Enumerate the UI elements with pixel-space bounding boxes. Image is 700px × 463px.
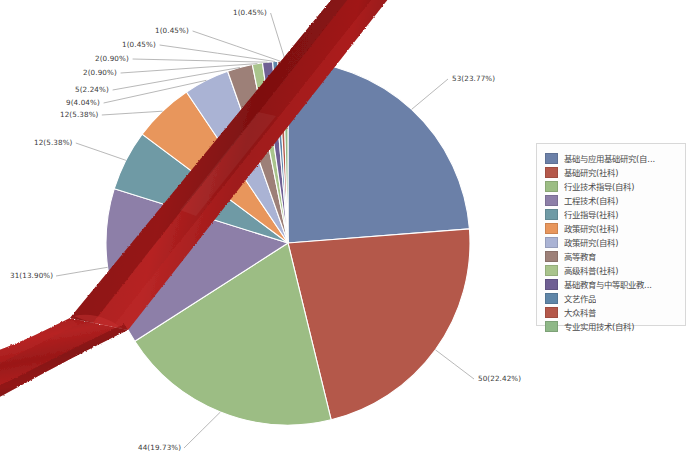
pie-data-label: 44(19.73%) (138, 443, 181, 452)
legend-item-label: 文艺作品 (564, 294, 596, 304)
pie-data-label: 50(22.42%) (478, 374, 521, 383)
chart-legend: 基础与应用基础研究(自...基础研究(社科)行业技术指导(自科)工程技术(自科)… (536, 143, 686, 326)
legend-item-label: 基础教育与中等职业教... (564, 280, 652, 290)
legend-color-swatch (545, 265, 558, 276)
pie-data-label: 31(13.90%) (10, 271, 53, 280)
pie-slices-group (106, 61, 470, 425)
label-leader-line (76, 143, 126, 160)
legend-color-swatch (545, 209, 558, 220)
label-leader-line (56, 267, 108, 276)
legend-item[interactable]: 行业指导(社科) (545, 208, 679, 221)
pie-data-label: 9(4.04%) (66, 98, 100, 107)
pie-data-label: 12(5.38%) (34, 138, 73, 147)
legend-color-swatch (545, 153, 558, 164)
pie-data-label: 53(23.77%) (452, 74, 495, 83)
legend-item-label: 政策研究(社科) (564, 224, 619, 234)
legend-item[interactable]: 行业技术指导(自科) (545, 180, 679, 193)
pie-data-label: 12(5.38%) (60, 110, 99, 119)
legend-item-list: 基础与应用基础研究(自...基础研究(社科)行业技术指导(自科)工程技术(自科)… (545, 152, 679, 333)
legend-item[interactable]: 政策研究(自科) (545, 236, 679, 249)
legend-item[interactable]: 文艺作品 (545, 292, 679, 305)
legend-item-label: 基础研究(社科) (564, 168, 619, 178)
legend-item[interactable]: 大众科普 (545, 306, 679, 319)
legend-item[interactable]: 基础研究(社科) (545, 166, 679, 179)
pie-data-label: 5(2.24%) (75, 85, 109, 94)
label-leader-line (102, 111, 163, 115)
label-leader-line (193, 31, 281, 61)
pie-data-label: 2(0.90%) (95, 54, 129, 63)
legend-color-swatch (545, 251, 558, 262)
legend-color-swatch (545, 293, 558, 304)
legend-item-label: 专业实用技术(自科) (564, 322, 635, 332)
legend-item-label: 政策研究(自科) (564, 238, 619, 248)
legend-item[interactable]: 高级科普(社科) (545, 264, 679, 277)
legend-item-label: 高级科普(社科) (564, 266, 619, 276)
legend-color-swatch (545, 237, 558, 248)
label-leader-line (184, 412, 220, 448)
legend-item[interactable]: 基础与应用基础研究(自... (545, 152, 679, 165)
pie-data-label: 2(0.90%) (83, 68, 117, 77)
legend-color-swatch (545, 321, 558, 332)
legend-item[interactable]: 基础教育与中等职业教... (545, 278, 679, 291)
legend-color-swatch (545, 307, 558, 318)
label-leader-line (271, 13, 286, 61)
chart-screenshot: 53(23.77%)50(22.42%)44(19.73%)31(13.90%)… (0, 0, 700, 463)
label-leader-line (412, 79, 448, 109)
legend-item-label: 工程技术(自科) (564, 196, 619, 206)
legend-item[interactable]: 高等教育 (545, 250, 679, 263)
label-leader-line (133, 59, 268, 62)
pie-data-label: 1(0.45%) (122, 40, 156, 49)
legend-item[interactable]: 工程技术(自科) (545, 194, 679, 207)
legend-item-label: 基础与应用基础研究(自... (564, 154, 655, 164)
label-leader-line (435, 350, 474, 379)
legend-item-label: 大众科普 (564, 308, 596, 318)
legend-item[interactable]: 政策研究(社科) (545, 222, 679, 235)
pie-data-label: 1(0.45%) (155, 26, 189, 35)
legend-color-swatch (545, 223, 558, 234)
legend-color-swatch (545, 279, 558, 290)
pie-data-label: 1(0.45%) (233, 8, 267, 17)
legend-item-label: 行业技术指导(自科) (564, 182, 635, 192)
legend-item-label: 行业指导(社科) (564, 210, 619, 220)
legend-item[interactable]: 专业实用技术(自科) (545, 320, 679, 333)
legend-color-swatch (545, 195, 558, 206)
legend-item-label: 高等教育 (564, 252, 596, 262)
pie-slice[interactable] (288, 61, 469, 243)
legend-color-swatch (545, 181, 558, 192)
legend-color-swatch (545, 167, 558, 178)
